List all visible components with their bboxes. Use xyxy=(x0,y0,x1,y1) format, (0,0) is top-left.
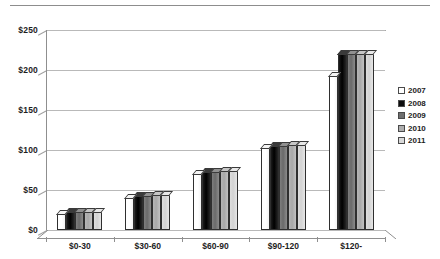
bar-face xyxy=(270,146,279,230)
legend-swatch-icon xyxy=(398,125,405,132)
bar-2007-$30-60[interactable] xyxy=(125,198,134,230)
bar-2009-$0-30[interactable] xyxy=(75,212,84,230)
bar-face xyxy=(211,172,220,230)
bar-slot xyxy=(134,30,143,230)
bar-face xyxy=(125,198,134,230)
bar-groups xyxy=(46,30,385,230)
bar-slot xyxy=(66,30,75,230)
bar-2009-$90-120[interactable] xyxy=(279,146,288,230)
x-axis-tick-label: $90-120 xyxy=(268,241,299,251)
x-axis-tick xyxy=(114,237,115,242)
x-axis-tick-label: $60-90 xyxy=(202,241,228,251)
bar-2008-$60-90[interactable] xyxy=(202,172,211,230)
bar-slot xyxy=(297,30,306,230)
legend-label: 2007 xyxy=(408,86,426,95)
bar-face xyxy=(202,172,211,230)
bar-slot xyxy=(347,30,356,230)
bar-slot xyxy=(220,30,229,230)
bar-2011-$60-90[interactable] xyxy=(229,171,238,230)
x-axis-tick-label: $30-60 xyxy=(134,241,160,251)
bar-face xyxy=(193,174,202,230)
bar-2009-$30-60[interactable] xyxy=(143,196,152,230)
legend-swatch-icon xyxy=(398,137,405,144)
x-axis-tick xyxy=(249,237,250,242)
bar-face xyxy=(161,195,170,230)
bar-face xyxy=(297,145,306,230)
bar-face xyxy=(279,146,288,230)
bar-face xyxy=(66,212,75,230)
bar-2008-$30-60[interactable] xyxy=(134,196,143,230)
legend-label: 2010 xyxy=(408,124,426,133)
bar-face xyxy=(288,145,297,230)
bar-2010-$0-30[interactable] xyxy=(84,212,93,230)
bar-2011-$90-120[interactable] xyxy=(297,145,306,230)
bar-slot xyxy=(288,30,297,230)
bar-2010-$120-[interactable] xyxy=(356,54,365,230)
bar-group xyxy=(57,30,102,230)
bar-2010-$60-90[interactable] xyxy=(220,171,229,230)
bar-2007-$120-[interactable] xyxy=(329,76,338,230)
y-axis-tick-label: $200 xyxy=(18,65,38,75)
bar-face xyxy=(93,212,102,230)
bar-face xyxy=(134,196,143,230)
bar-slot xyxy=(84,30,93,230)
bar-2011-$30-60[interactable] xyxy=(161,195,170,230)
legend-item-2007[interactable]: 2007 xyxy=(398,86,440,95)
bar-2011-$0-30[interactable] xyxy=(93,212,102,230)
legend-label: 2009 xyxy=(408,111,426,120)
bar-2007-$0-30[interactable] xyxy=(57,214,66,230)
bar-slot xyxy=(270,30,279,230)
bar-face xyxy=(347,54,356,230)
bar-group xyxy=(329,30,374,230)
bar-slot xyxy=(329,30,338,230)
x-axis-tick-label: $120- xyxy=(340,241,362,251)
bar-slot xyxy=(143,30,152,230)
x-axis-tick-label: $0-30 xyxy=(69,241,91,251)
bar-group xyxy=(261,30,306,230)
bar-2007-$90-120[interactable] xyxy=(261,148,270,230)
bar-slot xyxy=(57,30,66,230)
bar-slot xyxy=(211,30,220,230)
bar-slot xyxy=(161,30,170,230)
legend-item-2010[interactable]: 2010 xyxy=(398,124,440,133)
legend-swatch-icon xyxy=(398,100,405,107)
chart-legend: 20072008200920102011 xyxy=(398,86,440,145)
bar-face xyxy=(329,76,338,230)
legend-item-2009[interactable]: 2009 xyxy=(398,111,440,120)
bar-slot xyxy=(365,30,374,230)
bar-2011-$120-[interactable] xyxy=(365,54,374,230)
bar-2010-$90-120[interactable] xyxy=(288,145,297,230)
bar-face xyxy=(220,171,229,230)
bar-2008-$90-120[interactable] xyxy=(270,146,279,230)
bar-group xyxy=(125,30,170,230)
bar-2010-$30-60[interactable] xyxy=(152,195,161,230)
bar-face xyxy=(75,212,84,230)
x-axis-labels: $0-30$30-60$60-90$90-120$120- xyxy=(46,241,385,259)
x-axis-tick xyxy=(317,237,318,242)
legend-swatch-icon xyxy=(398,87,405,94)
legend-label: 2011 xyxy=(408,136,425,145)
x-axis-tick xyxy=(46,237,47,242)
bar-2007-$60-90[interactable] xyxy=(193,174,202,230)
bar-slot xyxy=(75,30,84,230)
bar-2009-$120-[interactable] xyxy=(347,54,356,230)
bar-face xyxy=(338,54,347,230)
bar-face xyxy=(152,195,161,230)
floor-right-corner xyxy=(385,230,396,239)
bar-2008-$0-30[interactable] xyxy=(66,212,75,230)
bar-2009-$60-90[interactable] xyxy=(211,172,220,230)
y-axis-tick-label: $100 xyxy=(18,145,38,155)
bar-slot xyxy=(356,30,365,230)
bar-face xyxy=(229,171,238,230)
legend-item-2011[interactable]: 2011 xyxy=(398,136,440,145)
bar-slot xyxy=(193,30,202,230)
gridline xyxy=(46,230,385,231)
bar-face xyxy=(356,54,365,230)
bar-2008-$120-[interactable] xyxy=(338,54,347,230)
bar-slot xyxy=(229,30,238,230)
legend-item-2008[interactable]: 2008 xyxy=(398,99,440,108)
bar-face xyxy=(143,196,152,230)
bar-slot xyxy=(125,30,134,230)
bar-face xyxy=(57,214,66,230)
bar-slot xyxy=(261,30,270,230)
